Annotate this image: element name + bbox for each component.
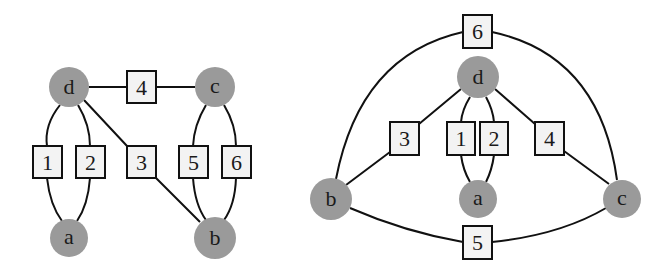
edge-label-3: 3 [390,122,419,155]
svg-text:1: 1 [42,150,53,175]
node-label: b [326,186,337,211]
svg-text:1: 1 [456,126,467,151]
node-label: a [64,224,74,249]
edge-label-3: 3 [127,146,156,178]
node-a: a [50,219,88,257]
edge-label-6: 6 [222,146,251,178]
node-label: b [210,225,221,250]
node-label: d [473,64,484,89]
node-b: b [310,178,352,220]
node-label: c [617,185,627,210]
node-b: b [194,217,236,259]
svg-text:2: 2 [489,126,500,151]
svg-text:6: 6 [231,150,242,175]
edge-label-2: 2 [76,146,105,178]
left-drawing: d c a b 1 2 3 4 [33,67,251,259]
svg-text:6: 6 [472,19,483,44]
node-d: d [49,67,89,107]
node-a: a [459,180,497,218]
node-d: d [457,56,499,98]
svg-text:2: 2 [85,150,96,175]
edge-label-6: 6 [463,15,492,48]
edge-label-2: 2 [480,122,508,155]
svg-text:5: 5 [188,150,199,175]
edge-label-1: 1 [33,146,62,178]
edge-label-4: 4 [127,71,156,103]
node-label: c [210,73,220,98]
edge-label-4: 4 [535,122,564,155]
edge-label-1: 1 [447,122,475,155]
right-drawing: d b a c 1 2 3 4 [310,15,641,259]
edge-label-5: 5 [179,146,208,178]
node-c: c [603,180,641,218]
node-label: d [64,74,75,99]
svg-text:4: 4 [136,75,147,100]
node-label: a [473,185,483,210]
svg-text:3: 3 [136,150,147,175]
svg-text:3: 3 [399,126,410,151]
graph-figure: d c a b 1 2 3 4 [0,0,670,279]
node-c: c [195,67,235,107]
edge-label-5: 5 [463,226,492,259]
svg-text:5: 5 [472,230,483,255]
svg-text:4: 4 [544,126,555,151]
